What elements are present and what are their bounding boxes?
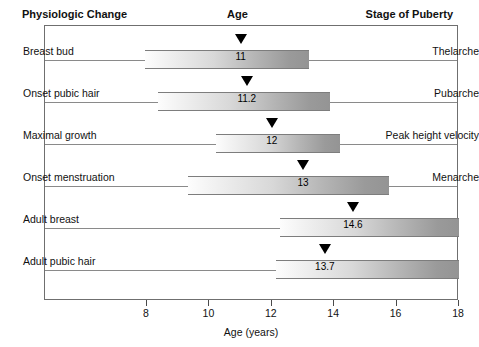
row-label-change: Onset pubic hair [23,87,99,99]
median-marker-icon [347,202,359,212]
axis-tick [333,300,334,306]
axis-tick [396,300,397,306]
table-row: Breast budThelarche11 [45,32,457,74]
median-marker-icon [235,34,247,44]
range-bar [158,92,330,111]
table-row: Adult pubic hair13.7 [45,242,457,284]
axis-tick-label: 8 [143,307,149,319]
x-axis-title: Age (years) [44,326,458,338]
plot-frame: Breast budThelarche11Onset pubic hairPub… [44,25,458,300]
range-bar [276,260,459,279]
range-bar [145,50,309,69]
axis-tick-label: 12 [265,307,277,319]
table-row: Onset menstruationMenarche13 [45,158,457,200]
header-stage-of-puberty: Stage of Puberty [366,8,453,20]
median-marker-icon [297,160,309,170]
axis-tick-label: 14 [327,307,339,319]
axis-tick [271,300,272,306]
axis-tick-label: 18 [452,307,464,319]
row-label-change: Maximal growth [23,129,97,141]
table-row: Adult breast14.6 [45,200,457,242]
range-bar [188,176,389,195]
axis-tick [458,300,459,306]
row-label-change: Onset menstruation [23,171,115,183]
median-marker-icon [319,244,331,254]
row-label-stage: Menarche [432,171,479,183]
row-label-stage: Thelarche [432,45,479,57]
median-marker-icon [266,118,278,128]
axis-tick [146,300,147,306]
range-bar [280,218,459,237]
range-bar [216,134,341,153]
row-label-stage: Peak height velocity [386,129,479,141]
axis-tick-label: 10 [203,307,215,319]
row-label-change: Adult pubic hair [23,255,95,267]
table-row: Maximal growthPeak height velocity12 [45,116,457,158]
table-row: Onset pubic hairPubarche11.2 [45,74,457,116]
row-label-stage: Pubarche [434,87,479,99]
median-marker-icon [241,76,253,86]
axis-tick-label: 16 [390,307,402,319]
row-label-change: Breast bud [23,45,74,57]
x-axis: Age (years) 81012141618 [44,300,458,347]
axis-tick [208,300,209,306]
row-label-change: Adult breast [23,213,79,225]
